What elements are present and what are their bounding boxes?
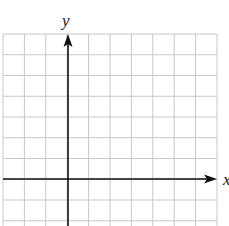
y-axis-label: y [60, 11, 70, 30]
coordinate-plane: y x [0, 0, 229, 226]
x-axis-label: x [222, 170, 229, 189]
grid-lines [3, 34, 217, 226]
